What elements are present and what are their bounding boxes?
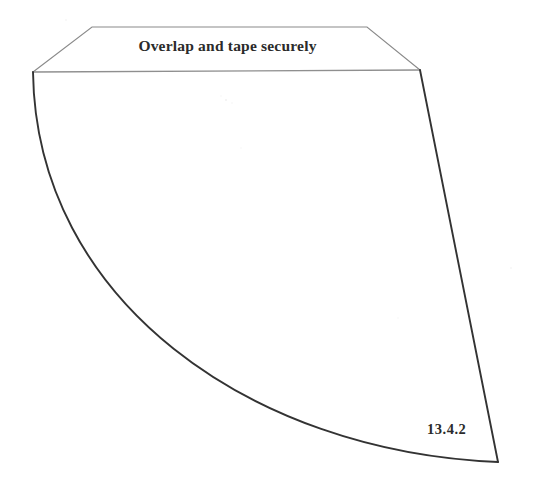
figure-number-label: 13.4.2 [427, 420, 466, 438]
tab-instruction-label: Overlap and tape securely [0, 36, 455, 56]
figure-page: Overlap and tape securely 13.4.2 [0, 0, 533, 490]
paper-background [0, 0, 533, 490]
papercraft-template-drawing [0, 0, 533, 490]
